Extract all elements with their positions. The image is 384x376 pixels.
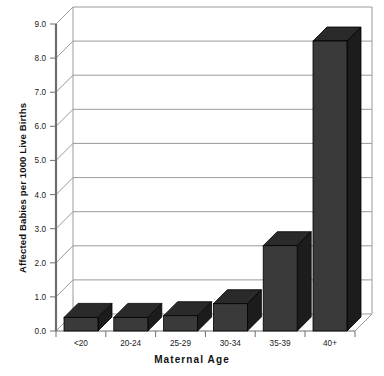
y-tick-label-0: 0.0 [35, 327, 47, 336]
x-tick-label-3: 30-34 [220, 339, 241, 348]
bar-front-face-5 [313, 41, 347, 331]
bar-front-face-2 [164, 316, 198, 331]
y-axis-title: Affected Babies per 1000 Live Births [17, 103, 28, 273]
x-tick-label-2: 25-29 [170, 339, 191, 348]
bar-front-face-1 [114, 317, 148, 331]
y-tick-label-4: 4.0 [35, 191, 47, 200]
y-axis-title-text: Affected Babies per 1000 Live Births [17, 103, 28, 273]
bar-front-face-0 [64, 317, 98, 331]
y-tick-label-5: 5.0 [35, 156, 47, 165]
plot-area: 9.0 8.0 7.0 6.0 5.0 4.0 3.0 2.0 1.0 0.0 [35, 7, 372, 348]
y-tick-label-8: 8.0 [35, 54, 47, 63]
x-tick-label-4: 35-39 [270, 339, 291, 348]
bar-side-face-4 [297, 232, 311, 331]
bar-front-face-3 [213, 304, 247, 331]
bar-side-face-5 [347, 27, 361, 331]
y-tick-label-3: 3.0 [35, 225, 47, 234]
y-tick-label-9: 9.0 [35, 20, 47, 29]
x-tick-label-0: <20 [74, 339, 88, 348]
x-axis-title: Maternal Age [154, 354, 230, 365]
bar-front-face-4 [263, 246, 297, 331]
y-tick-label-6: 6.0 [35, 122, 47, 131]
y-tick-label-2: 2.0 [35, 259, 47, 268]
x-tick-label-1: 20-24 [120, 339, 141, 348]
bar-group-5 [313, 27, 361, 331]
y-tick-label-1: 1.0 [35, 293, 47, 302]
x-tick-label-5: 40+ [323, 339, 337, 348]
chart-svg: Affected Babies per 1000 Live Births [0, 0, 384, 376]
bar-group-4 [263, 232, 311, 331]
y-tick-label-7: 7.0 [35, 88, 47, 97]
bar-chart-figure: Affected Babies per 1000 Live Births [0, 0, 384, 376]
